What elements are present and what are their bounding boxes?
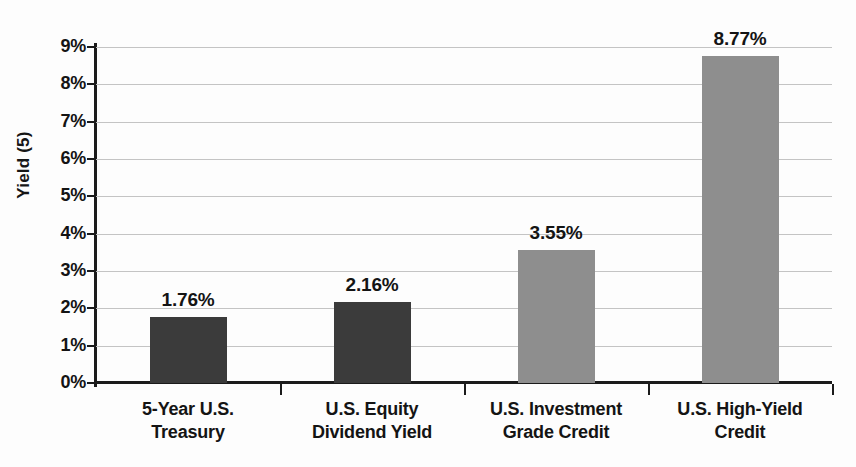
x-tick-mark [280, 384, 282, 395]
x-category-label-line: U.S. Equity [280, 398, 464, 421]
x-category-label-line: Dividend Yield [280, 421, 464, 444]
bar[interactable] [150, 317, 227, 383]
y-tick-mark [87, 83, 95, 85]
y-tick-label: 0% [14, 372, 86, 393]
y-tick-mark [87, 307, 95, 309]
x-category-label-line: Credit [648, 421, 832, 444]
y-tick-label-wrap: 4% [0, 223, 86, 243]
y-tick-label-wrap: 8% [0, 73, 86, 93]
x-tick-mark [648, 384, 650, 395]
x-tick-mark [832, 384, 834, 395]
y-tick-mark [87, 270, 95, 272]
y-tick-mark [87, 158, 95, 160]
y-tick-label-wrap: 6% [0, 148, 86, 168]
y-tick-label: 7% [14, 111, 86, 132]
y-tick-label-wrap: 7% [0, 111, 86, 131]
bar-value-label: 1.76% [118, 289, 258, 311]
bar-value-label: 2.16% [302, 274, 442, 296]
y-tick-label: 3% [14, 260, 86, 281]
x-tick-mark [464, 384, 466, 395]
x-category-label: U.S. High-YieldCredit [648, 398, 832, 443]
x-category-label: 5-Year U.S.Treasury [96, 398, 280, 443]
y-tick-mark [87, 195, 95, 197]
y-tick-mark [87, 233, 95, 235]
plot-area: 1.76%2.16%3.55%8.77% [96, 47, 832, 383]
bar[interactable] [518, 250, 595, 383]
bar-value-label: 8.77% [670, 28, 810, 50]
x-category-label: U.S. InvestmentGrade Credit [464, 398, 648, 443]
y-tick-label: 6% [14, 148, 86, 169]
y-tick-label-wrap: 9% [0, 36, 86, 56]
x-category-label-line: U.S. Investment [464, 398, 648, 421]
bar[interactable] [702, 56, 779, 383]
x-category-label-line: 5-Year U.S. [96, 398, 280, 421]
x-category-label: U.S. EquityDividend Yield [280, 398, 464, 443]
bar-chart: Yield (5) 0%1%2%3%4%5%6%7%8%9% 1.76%2.16… [0, 0, 856, 467]
x-category-label-line: Treasury [96, 421, 280, 444]
x-category-label-line: Grade Credit [464, 421, 648, 444]
y-tick-mark [87, 382, 95, 384]
y-tick-label-wrap: 5% [0, 185, 86, 205]
y-tick-label-wrap: 3% [0, 260, 86, 280]
y-tick-label: 8% [14, 73, 86, 94]
y-tick-mark [87, 121, 95, 123]
bar[interactable] [334, 302, 411, 383]
y-tick-label-wrap: 0% [0, 372, 86, 392]
y-tick-mark [87, 46, 95, 48]
y-tick-mark [87, 345, 95, 347]
y-tick-label-wrap: 1% [0, 335, 86, 355]
x-category-label-line: U.S. High-Yield [648, 398, 832, 421]
y-tick-label-wrap: 2% [0, 297, 86, 317]
y-tick-label: 5% [14, 185, 86, 206]
y-tick-label: 1% [14, 335, 86, 356]
y-tick-label: 9% [14, 36, 86, 57]
y-tick-label: 4% [14, 223, 86, 244]
bar-value-label: 3.55% [486, 222, 626, 244]
y-tick-label: 2% [14, 297, 86, 318]
